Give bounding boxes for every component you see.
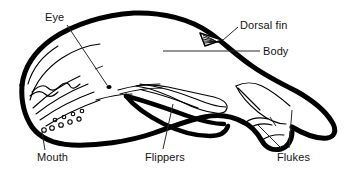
jaw-tubercles — [42, 109, 84, 132]
whale-illustration — [0, 0, 348, 170]
label-mouth: Mouth — [37, 151, 68, 163]
label-flippers: Flippers — [145, 151, 185, 163]
leader-eye — [67, 25, 107, 85]
leader-dorsal-fin — [223, 27, 238, 40]
whale-anatomy-diagram: Eye Dorsal fin Body Mouth Flippers Fluke… — [0, 0, 348, 170]
label-flukes: Flukes — [277, 151, 310, 163]
label-body: Body — [263, 45, 288, 57]
label-dorsal-fin: Dorsal fin — [240, 19, 287, 31]
leader-eye-tick — [95, 66, 103, 69]
label-eye: Eye — [45, 11, 64, 23]
eye-marker — [106, 85, 111, 89]
